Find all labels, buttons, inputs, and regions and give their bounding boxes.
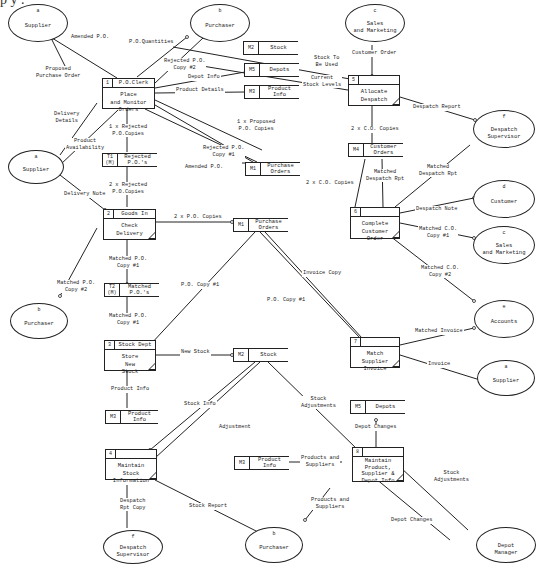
entity-id: e (475, 304, 533, 310)
process-location (116, 450, 156, 458)
flow-label: Invoice Copy (302, 270, 342, 277)
store-id: M5 (351, 401, 366, 413)
store-id: M4 (349, 144, 364, 156)
entity-label: Customer (474, 198, 534, 205)
process-number: 1 (103, 79, 113, 87)
external-entity-purchaser[interactable]: b Purchaser (245, 527, 303, 563)
flow-label: 2 x P.O. Copies (173, 214, 223, 221)
flow-label: Depot Info (187, 74, 221, 81)
flow-label: Delivery Note (63, 191, 106, 198)
data-store-product-info[interactable]: M3 Product Info (105, 410, 158, 424)
flow-label: P.O.Quantities (128, 39, 175, 46)
external-entity-purchaser[interactable]: b Purchaser (10, 303, 68, 339)
process-match-supplier-invoice[interactable]: 7 Match Supplier Invoice (350, 337, 400, 368)
store-id: M2 (244, 42, 259, 54)
external-entity-despatch-supervisor[interactable]: f Despatch Supervisor (103, 530, 163, 564)
external-entity-supplier[interactable]: a Supplier (8, 4, 68, 42)
store-label: Stock (259, 42, 298, 54)
flow-label: Amended P.O. (184, 164, 224, 171)
store-id: M1 (246, 163, 261, 175)
flow-label: Matched C.O. Copy #2 (420, 265, 460, 278)
process-location (363, 448, 403, 456)
flow-label: Despatch Rpt Copy (119, 498, 146, 511)
store-label: Depots (260, 64, 299, 76)
process-number: 5 (349, 76, 359, 84)
external-entity-customer[interactable]: d Customer (473, 180, 535, 218)
store-id: M3 (245, 86, 260, 98)
store-label: Rejected P.O.'s (118, 154, 157, 166)
process-store-new-stock[interactable]: 3Stock Dept Store New Stock (104, 340, 156, 371)
data-store-stock[interactable]: M2 Stock (233, 348, 288, 362)
external-entity-sales-marketing[interactable]: c Sales and Marketing (473, 226, 535, 264)
flow-label: Products and Suppliers (300, 455, 340, 468)
store-id: T1 (M) (103, 154, 118, 166)
store-label: Depots (366, 401, 405, 413)
process-maintain-stock-information[interactable]: 4 Maintain Stock Information (105, 449, 157, 480)
flow-label: 1 x Rejected P.O.Copies (108, 124, 148, 137)
flow-label: New Stock (180, 349, 211, 356)
process-check-delivery[interactable]: 2Goods In Check Delivery (103, 209, 156, 240)
process-number: 3 (105, 341, 115, 349)
process-maintain-product-supplier-depot-info[interactable]: 8 Maintain Product, Supplier & Depot Inf… (352, 447, 404, 482)
entity-id: a (478, 364, 534, 370)
corner-marker-icon (148, 232, 155, 239)
external-entity-depot-manager[interactable]: Depot Manager (476, 527, 536, 563)
entity-label: Supplier (9, 22, 67, 29)
flow-label: Delivery Details (53, 111, 80, 124)
process-allocate-despatch[interactable]: 5 Allocate Despatch (348, 75, 400, 106)
process-number: 2 (104, 210, 114, 218)
external-entity-purchaser[interactable]: b Purchaser (190, 4, 250, 42)
flow-label: 2 x C.O. Copies (350, 126, 400, 133)
process-number: 7 (351, 338, 361, 346)
flow-label: Product Availability (65, 138, 105, 151)
corner-marker-icon (392, 360, 399, 367)
corner-marker-icon (396, 474, 403, 481)
entity-id: f (104, 534, 162, 540)
external-entity-supplier[interactable]: a Supplier (8, 150, 64, 184)
flow-label: Matched P.O. Copy #1 (108, 313, 148, 326)
data-store-depots[interactable]: M5 Depots (350, 400, 405, 414)
entity-id: b (191, 8, 249, 14)
process-location (361, 338, 399, 346)
data-store-rejected-pos[interactable]: T1 (M) Rejected P.O.'s (102, 153, 157, 167)
process-complete-customer-order[interactable]: 6 Complete Customer Order (350, 207, 400, 239)
data-store-stock[interactable]: M2 Stock (243, 41, 298, 55)
corner-marker-icon (392, 231, 399, 238)
store-label: Purchase Orders (261, 163, 300, 175)
data-store-depots[interactable]: M5 Depots (244, 63, 299, 77)
flow-label: Matched Invoice (414, 328, 464, 335)
data-store-product-info[interactable]: M3 Product Info (234, 456, 289, 470)
store-id: M5 (245, 64, 260, 76)
flow-label: Adjustment (218, 424, 252, 431)
store-id: M1 (234, 219, 249, 231)
external-entity-accounts[interactable]: e Accounts (474, 300, 534, 338)
data-store-customer-orders[interactable]: M4 Customer Orders (348, 143, 403, 157)
data-store-purchase-orders[interactable]: M1 Purchase Orders (245, 162, 300, 176)
external-entity-despatch-supervisor[interactable]: f Despatch Supervisor (473, 110, 535, 148)
external-entity-supplier[interactable]: a Supplier (477, 360, 535, 396)
flow-label: Depot Changes (390, 517, 433, 524)
flow-label: Stock Adjustments (300, 396, 337, 409)
flow-label: 2 x Rejected P.O.Copies (108, 182, 148, 195)
flow-label: Matched Despatch Rpt (418, 164, 458, 177)
data-store-matched-pos[interactable]: T2 (M) Matched P.O.'s (104, 283, 159, 297)
store-label: Product Info (121, 411, 158, 423)
data-store-product-info[interactable]: M3 Product Info (244, 85, 299, 99)
process-place-monitor-orders[interactable]: 1P.O.Clerk Place and Monitor Orders (102, 78, 155, 109)
flow-label: Products and Suppliers (310, 497, 350, 510)
corner-marker-icon (392, 98, 399, 105)
store-id: T2 (M) (105, 284, 120, 296)
entity-id: a (9, 8, 67, 14)
store-label: Product Info (260, 86, 299, 98)
flow-label: Matched Despatch Rpt (365, 169, 405, 182)
flow-label: Stock Adjustments (433, 470, 470, 483)
corner-marker-icon (149, 472, 156, 479)
flow-label: Current Stock Levels (302, 75, 342, 88)
entity-id: f (474, 114, 534, 120)
flow-label: Amended P.O. (70, 34, 110, 41)
data-store-purchase-orders[interactable]: M1 Purchase Orders (233, 218, 288, 232)
external-entity-sales-marketing[interactable]: c Sales and Marketing (345, 4, 405, 42)
entity-label: Despatch Supervisor (474, 126, 534, 140)
process-number: 8 (353, 448, 363, 456)
flow-label: P.O. Copy #1 (180, 282, 220, 289)
